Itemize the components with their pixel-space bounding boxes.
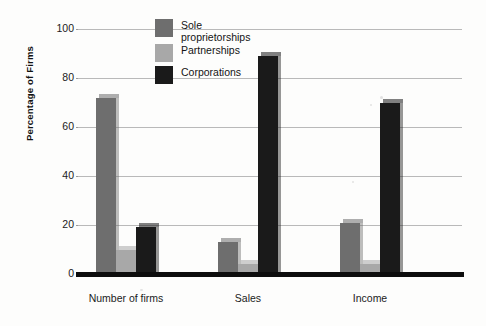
bar-face (380, 103, 400, 275)
bar-group-0 (96, 29, 156, 274)
plot-area (78, 29, 462, 274)
legend-swatch-icon (155, 66, 173, 84)
y-tick-label-20: 20 (52, 218, 74, 230)
bar-group-2 (340, 29, 400, 274)
x-axis-label-2: Income (310, 292, 430, 304)
legend-swatch-icon (155, 19, 173, 37)
x-axis-baseline (76, 272, 464, 277)
scan-speckle (380, 96, 383, 99)
y-tick-label-100: 100 (52, 22, 74, 34)
bar (96, 98, 116, 274)
x-axis-label-1: Sales (188, 292, 308, 304)
scan-speckle (370, 104, 372, 106)
bar (116, 250, 136, 275)
legend-label: Sole proprietorships (181, 19, 250, 43)
bar-face (116, 250, 136, 275)
bar (380, 103, 400, 275)
bar-face (258, 56, 278, 274)
legend-swatch-icon (155, 44, 173, 62)
y-tick-label-60: 60 (52, 120, 74, 132)
bar (136, 227, 156, 274)
legend-item-1: Partnerships (155, 44, 240, 62)
bar-side (156, 227, 159, 274)
scan-speckle (140, 289, 143, 291)
x-axis-label-0: Number of firms (66, 292, 186, 304)
legend-item-0: Sole proprietorships (155, 19, 250, 43)
y-tick-label-0: 0 (52, 267, 74, 279)
legend-item-2: Corporations (155, 66, 241, 84)
bar-face (96, 98, 116, 274)
scan-speckle (352, 181, 354, 183)
legend-label: Partnerships (181, 44, 240, 57)
bar (218, 242, 238, 274)
bar-chart: Percentage of Firms 020406080100 Number … (0, 0, 486, 326)
legend-label: Corporations (181, 66, 241, 79)
bar-face (340, 223, 360, 274)
y-tick-label-40: 40 (52, 169, 74, 181)
bar (258, 56, 278, 274)
bar (340, 223, 360, 274)
bar-side (400, 103, 403, 275)
bar-face (136, 227, 156, 274)
y-tick-label-80: 80 (52, 71, 74, 83)
bar-face (218, 242, 238, 274)
y-axis-title: Percentage of Firms (24, 29, 35, 159)
bar-side (278, 56, 281, 274)
